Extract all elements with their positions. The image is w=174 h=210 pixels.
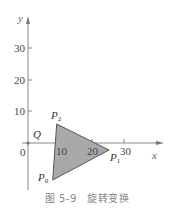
y-axis-label: y (17, 12, 23, 24)
label-p0: P0 (37, 171, 49, 185)
x-tick-label-10: 10 (56, 145, 68, 157)
x-tick-label-30: 30 (120, 145, 132, 157)
y-tick-label-20: 20 (14, 74, 26, 86)
y-tick-label-30: 30 (14, 42, 26, 54)
x-axis-label: x (151, 149, 157, 161)
label-p1: P1 (109, 151, 121, 165)
y-tick-label-10: 10 (14, 105, 26, 117)
label-q: Q (33, 128, 41, 140)
rotation-figure: y x 30 20 10 0 10 20 30 Q P2 P1 P0 (0, 0, 174, 190)
origin-label: 0 (20, 146, 26, 158)
label-p2: P2 (50, 109, 62, 123)
label-p2-sub: 2 (58, 115, 62, 123)
point-q (26, 141, 29, 144)
x-tick-label-20: 20 (87, 145, 99, 157)
label-p1-sub: 1 (117, 157, 121, 165)
figure-caption: 图 5-9 旋转变换 (0, 190, 174, 205)
label-p0-sub: 0 (45, 177, 49, 185)
y-axis-arrow-icon (26, 16, 30, 24)
x-axis-arrow-icon (156, 141, 164, 145)
